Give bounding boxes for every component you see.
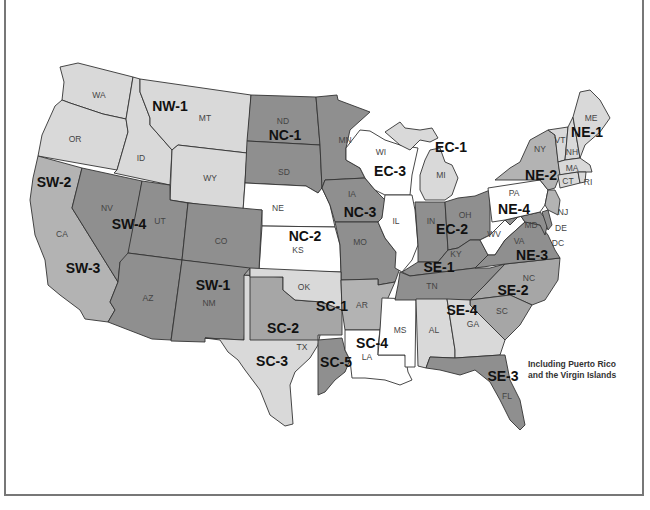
region-se — [395, 240, 560, 430]
label-se-3: SE-3 — [487, 368, 518, 384]
label-ar: AR — [356, 300, 368, 310]
label-sw-2: SW-2 — [37, 174, 72, 190]
label-se-1: SE-1 — [423, 259, 454, 275]
label-vt: VT — [555, 135, 566, 145]
label-sd: SD — [278, 167, 290, 177]
label-ri: RI — [584, 177, 593, 187]
label-sc-5: SC-5 — [320, 354, 352, 370]
label-ut: UT — [154, 216, 165, 226]
label-wv: WV — [487, 229, 501, 239]
label-ne-3: NE-3 — [516, 247, 548, 263]
label-in: IN — [427, 216, 436, 226]
label-sc-2: SC-2 — [267, 320, 299, 336]
label-nc-1: NC-1 — [269, 127, 302, 143]
label-wy: WY — [203, 173, 217, 183]
label-ca: CA — [56, 229, 68, 239]
label-sc: SC — [496, 306, 508, 316]
label-sw-3: SW-3 — [66, 260, 101, 276]
label-tx: TX — [297, 342, 308, 352]
us-region-map: WA OR ID MT WY ND SD MN NE KS IA MO CA N… — [0, 0, 650, 510]
label-pa: PA — [509, 188, 520, 198]
label-nw-1: NW-1 — [152, 98, 188, 114]
label-nc-3: NC-3 — [344, 204, 377, 220]
label-nv: NV — [101, 203, 113, 213]
label-mi: MI — [436, 170, 445, 180]
label-ne-1: NE-1 — [571, 124, 603, 140]
label-nd: ND — [277, 116, 289, 126]
label-va: VA — [514, 236, 525, 246]
label-ec-2: EC-2 — [436, 221, 468, 237]
label-oh: OH — [459, 210, 472, 220]
label-mo: MO — [353, 237, 367, 247]
label-de: DE — [555, 223, 567, 233]
label-ne: NE — [272, 203, 284, 213]
label-sc-1: SC-1 — [316, 298, 348, 314]
label-sw-1: SW-1 — [196, 277, 231, 293]
label-sw-4: SW-4 — [112, 216, 147, 232]
label-fl: FL — [502, 391, 512, 401]
label-tn: TN — [426, 281, 437, 291]
label-ny: NY — [534, 144, 546, 154]
label-az: AZ — [143, 293, 154, 303]
label-ne-4: NE-4 — [498, 201, 530, 217]
label-ks: KS — [292, 245, 304, 255]
label-or: OR — [69, 134, 82, 144]
label-co: CO — [215, 236, 228, 246]
label-se-4: SE-4 — [446, 302, 477, 318]
label-ok: OK — [298, 282, 311, 292]
label-ky: KY — [450, 249, 462, 259]
label-se-2: SE-2 — [497, 282, 528, 298]
label-wi: WI — [376, 147, 386, 157]
territories-note: Including Puerto Rico and the Virgin Isl… — [528, 359, 616, 381]
label-ct: CT — [562, 176, 573, 186]
label-me: ME — [585, 113, 598, 123]
label-dc: DC — [552, 238, 564, 248]
label-ma: MA — [566, 163, 579, 173]
label-nc-2: NC-2 — [289, 228, 322, 244]
label-ne-2: NE-2 — [525, 167, 557, 183]
label-al: AL — [429, 325, 440, 335]
label-md: MD — [524, 220, 537, 230]
label-il: IL — [392, 216, 399, 226]
label-sc-3: SC-3 — [256, 353, 288, 369]
label-ga: GA — [467, 319, 480, 329]
label-wa: WA — [92, 90, 106, 100]
label-ms: MS — [394, 325, 407, 335]
label-sc-4: SC-4 — [356, 335, 388, 351]
label-id: ID — [137, 153, 146, 163]
label-nj: NJ — [558, 207, 568, 217]
label-la: LA — [362, 352, 373, 362]
label-nm: NM — [202, 298, 215, 308]
label-nh: NH — [566, 147, 578, 157]
label-mn: MN — [338, 135, 351, 145]
label-mt: MT — [199, 113, 211, 123]
label-ia: IA — [348, 189, 356, 199]
label-ec-1: EC-1 — [435, 139, 467, 155]
label-ec-3: EC-3 — [374, 163, 406, 179]
